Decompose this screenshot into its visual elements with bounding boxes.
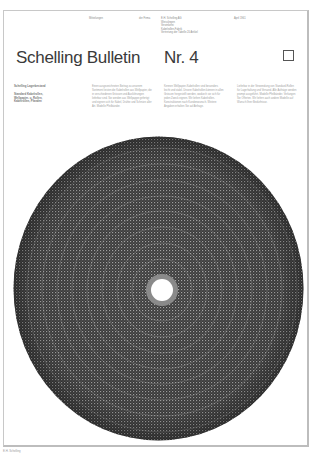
masthead-label-firma: der Firma bbox=[139, 17, 150, 21]
cable-reel-photo bbox=[13, 136, 304, 441]
body-column-1: Einen ausgezeichneten Beitrag zu unserem… bbox=[92, 85, 152, 108]
footer-credit: E.H. Schelling bbox=[3, 449, 21, 453]
masthead-company-address: E.H. Schelling AG Weisslingen Verzinkere… bbox=[161, 17, 198, 35]
masthead-label-mitteilungen: Mitteilungen bbox=[89, 17, 103, 21]
page-title: Schelling Bulletin bbox=[16, 48, 140, 68]
issue-number: Nr. 4 bbox=[164, 48, 198, 68]
body-column-3: Lieferbar in der Verwendung von Standard… bbox=[237, 85, 297, 105]
sidebar-heading-block: Schelling Lagerbestand Standard Kabelrol… bbox=[14, 85, 74, 104]
corrugated-reel-image bbox=[13, 136, 304, 441]
sidebar-line: Kabelrollen, Pfanden bbox=[14, 100, 74, 104]
square-mark-icon bbox=[283, 50, 294, 61]
masthead-date: April 1961 bbox=[234, 17, 246, 21]
body-column-2: Kennen Wellpapier-Kabelrollen sind beson… bbox=[164, 85, 224, 108]
